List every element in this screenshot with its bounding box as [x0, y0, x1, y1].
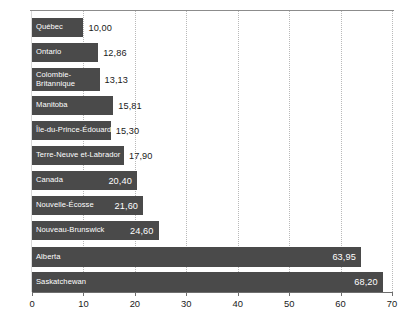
bar-row[interactable]: Nouveau-Brunswick24,60: [32, 221, 392, 240]
x-axis-tick-label: 40: [232, 298, 242, 309]
bar-value-label: 10,00: [88, 18, 112, 37]
bar[interactable]: [32, 272, 383, 292]
x-axis-tick-label: 10: [78, 298, 88, 309]
bar-row[interactable]: Québec10,00: [32, 18, 392, 37]
x-axis-tick-label: 0: [29, 298, 34, 309]
x-axis-tick-label: 20: [130, 298, 140, 309]
bar-value-label: 63,95: [321, 247, 356, 267]
x-axis-tick-30: [186, 292, 187, 296]
x-axis-tick-70: [392, 292, 393, 296]
bar-value-label: 15,30: [116, 121, 140, 140]
bar[interactable]: [32, 18, 83, 37]
bar-row[interactable]: Saskatchewan68,20: [32, 272, 392, 292]
x-axis-tick-20: [135, 292, 136, 296]
bar-value-label: 24,60: [119, 221, 154, 240]
bar-value-label: 20,40: [97, 171, 132, 190]
x-axis-tick-label: 50: [284, 298, 294, 309]
x-axis-tick-60: [341, 292, 342, 296]
bar-value-label: 15,81: [118, 96, 142, 115]
bar[interactable]: [32, 146, 124, 165]
bar-value-label: 13,13: [105, 68, 129, 91]
bar-value-label: 12,86: [103, 43, 127, 62]
x-axis-tick-label: 70: [387, 298, 397, 309]
bar-row[interactable]: Terre-Neuve et-Labrador17,90: [32, 146, 392, 165]
bar-value-label: 21,60: [103, 196, 138, 215]
bar[interactable]: [32, 68, 100, 91]
x-axis-tick-label: 60: [335, 298, 345, 309]
bar-row[interactable]: Nouvelle-Écosse21,60: [32, 196, 392, 215]
bar-row[interactable]: Alberta63,95: [32, 247, 392, 267]
bar[interactable]: [32, 121, 111, 140]
x-axis-tick-label: 30: [181, 298, 191, 309]
x-axis-tick-40: [238, 292, 239, 296]
x-axis-line: [32, 292, 392, 293]
x-axis-tick-10: [83, 292, 84, 296]
bar-value-label: 68,20: [343, 272, 378, 292]
gridline-70: [392, 11, 393, 292]
bar-row[interactable]: Île-du-Prince-Édouard15,30: [32, 121, 392, 140]
x-axis-tick-0: [32, 292, 33, 296]
bar-series: Québec10,00Ontario12,86Colombie- Britann…: [32, 11, 392, 292]
x-axis-tick-50: [289, 292, 290, 296]
bar-value-label: 17,90: [129, 146, 153, 165]
bar-chart: Québec10,00Ontario12,86Colombie- Britann…: [0, 0, 420, 316]
bar[interactable]: [32, 43, 98, 62]
bar[interactable]: [32, 96, 113, 115]
bar-row[interactable]: Canada20,40: [32, 171, 392, 190]
bar-row[interactable]: Ontario12,86: [32, 43, 392, 62]
bar-row[interactable]: Colombie- Britannique13,13: [32, 68, 392, 91]
bar-row[interactable]: Manitoba15,81: [32, 96, 392, 115]
bar[interactable]: [32, 247, 361, 267]
